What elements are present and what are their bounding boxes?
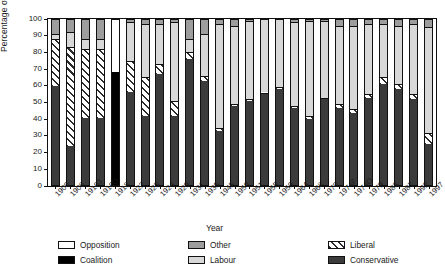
segment-labour-1983 (379, 24, 388, 77)
y-tick-label: 40 (33, 114, 42, 123)
y-tick-label: 20 (33, 147, 42, 156)
bar-1964 (290, 19, 299, 186)
segment-liberal-1924 (155, 64, 164, 74)
y-tick-label: 50 (33, 97, 42, 106)
y-tick-label: 10 (33, 164, 42, 173)
segment-liberal-1983 (379, 77, 388, 84)
segment-conservative-1923 (141, 116, 150, 186)
segment-other-1974F (335, 19, 344, 26)
segment-liberal-1900 (51, 39, 60, 86)
bar-1910J (81, 19, 90, 186)
segment-conservative-1945 (215, 131, 224, 186)
segment-labour-1923 (141, 24, 150, 77)
segment-other-1974O (349, 19, 358, 26)
bar-1983 (379, 19, 388, 186)
bar-1966 (305, 19, 314, 186)
segment-conservative-1922 (126, 92, 135, 186)
legend-item-conservative[interactable]: Conservative (328, 253, 398, 266)
bar-1959 (275, 19, 284, 186)
segment-other-1987 (394, 19, 403, 26)
segment-conservative-1983 (379, 84, 388, 186)
y-axis-title: Percentage of seats (0, 0, 9, 52)
legend-item-other[interactable]: Other (188, 238, 231, 251)
segment-labour-1987 (394, 26, 403, 84)
legend-item-coalition[interactable]: Coalition (58, 253, 112, 266)
bar-1900 (51, 19, 60, 186)
segment-labour-1970 (320, 21, 329, 98)
segment-other-1910J (81, 19, 90, 39)
legend-swatch-labour (188, 256, 205, 264)
segment-labour-1951 (245, 21, 254, 99)
segment-liberal-1997 (424, 133, 433, 145)
bar-1910D (96, 19, 105, 186)
y-tick-label: 30 (33, 130, 42, 139)
bar-1970 (320, 19, 329, 186)
segment-conservative-1974O (349, 113, 358, 186)
segment-other-1992 (409, 19, 418, 24)
chart-legend: OppositionCoalitionOtherLabourLiberalCon… (58, 238, 438, 268)
segment-conservative-1992 (409, 99, 418, 186)
x-axis: Year 190019061910J1910D19181922192319241… (0, 186, 445, 232)
segment-conservative-1935 (200, 81, 209, 186)
segment-liberal-1974F (335, 104, 344, 107)
bar-1931 (185, 19, 194, 186)
segment-other-1923 (141, 19, 150, 24)
segment-conservative-1974F (335, 108, 344, 186)
segment-other-1910D (96, 19, 105, 39)
segment-other-1900 (51, 19, 60, 34)
segment-liberal-1951 (245, 99, 254, 101)
bar-1929 (170, 19, 179, 186)
segment-labour-1900 (51, 34, 60, 39)
segment-conservative-1959 (275, 89, 284, 186)
bar-1987 (394, 19, 403, 186)
segment-labour-1955 (260, 19, 269, 92)
segment-conservative-1966 (305, 119, 314, 186)
legend-label-other: Other (210, 240, 231, 250)
x-axis-title: Year (206, 223, 223, 233)
segment-liberal-1992 (409, 94, 418, 99)
chart-root: Percentage of seats 01020304050607080901… (0, 0, 445, 273)
segment-conservative-1906 (66, 146, 75, 186)
segment-other-1964 (290, 19, 299, 22)
segment-other-1970 (320, 19, 329, 21)
y-tick-label: 100 (29, 14, 42, 23)
segment-other-1950 (230, 19, 239, 26)
segment-liberal-1959 (275, 87, 284, 89)
bar-1974F (335, 19, 344, 186)
segment-conservative-1951 (245, 101, 254, 186)
legend-item-opposition[interactable]: Opposition (58, 238, 120, 251)
y-tick-label: 70 (33, 64, 42, 73)
y-tick-label: 60 (33, 80, 42, 89)
segment-other-1922 (126, 19, 135, 22)
segment-liberal-1966 (305, 116, 314, 119)
bar-1923 (141, 19, 150, 186)
bar-1924 (155, 19, 164, 186)
legend-label-conservative: Conservative (350, 255, 398, 265)
segment-liberal-1955 (260, 93, 269, 95)
bars-container (48, 19, 436, 186)
legend-item-labour[interactable]: Labour (188, 253, 236, 266)
segment-conservative-1910D (96, 118, 105, 186)
legend-swatch-coalition (58, 256, 75, 264)
segment-other-1935 (200, 19, 209, 34)
legend-swatch-conservative (328, 256, 345, 264)
y-tick-label: 90 (33, 30, 42, 39)
segment-liberal-1970 (320, 98, 329, 100)
segment-labour-1964 (290, 22, 299, 106)
segment-labour-1910J (81, 39, 90, 49)
bar-1918 (111, 19, 120, 186)
segment-conservative-1931 (185, 59, 194, 186)
legend-label-labour: Labour (210, 255, 236, 265)
segment-conservative-1950 (230, 106, 239, 186)
segment-conservative-1964 (290, 108, 299, 186)
segment-other-1945 (215, 19, 224, 24)
legend-item-liberal[interactable]: Liberal (328, 238, 375, 251)
segment-labour-1929 (170, 22, 179, 100)
legend-swatch-opposition (58, 241, 75, 249)
segment-other-1983 (379, 19, 388, 24)
segment-liberal-1910D (96, 49, 105, 117)
legend-label-coalition: Coalition (80, 255, 112, 265)
segment-liberal-1929 (170, 101, 179, 116)
axis-line-right (436, 18, 437, 187)
segment-conservative-1970 (320, 99, 329, 186)
